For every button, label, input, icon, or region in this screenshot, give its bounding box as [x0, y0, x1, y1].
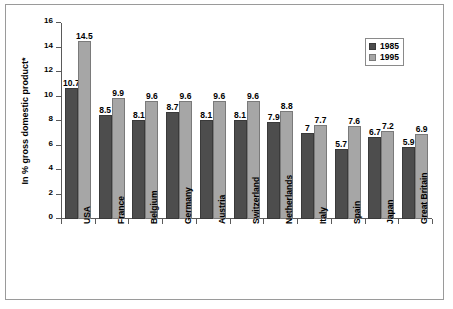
- x-axis-tick: [365, 219, 366, 224]
- bar-value-label: 7.7: [315, 115, 327, 125]
- bar-1985-netherlands: 7.9: [267, 122, 280, 219]
- category-label-france: France: [116, 196, 126, 224]
- bar-1985-germany: 8.7: [166, 112, 179, 219]
- y-axis-tick-label: 6: [49, 139, 53, 148]
- category-label-usa: USA: [82, 206, 92, 224]
- category-label-japan: Japan: [385, 199, 395, 224]
- x-axis-tick: [331, 219, 332, 224]
- bar-1985-italy: 7: [301, 133, 314, 219]
- bar-value-label: 8.8: [281, 101, 293, 111]
- legend-label-1995: 1995: [380, 52, 399, 63]
- chart-legend: 1985 1995: [365, 38, 404, 66]
- x-axis-tick: [61, 219, 62, 224]
- bar-value-label: 7.6: [348, 116, 360, 126]
- bar-value-label: 14.5: [76, 31, 93, 41]
- bar-value-label: 8.1: [234, 110, 246, 120]
- category-label-great-britain: Great Britain: [419, 173, 429, 225]
- category-label-italy: Italy: [318, 207, 328, 224]
- bar-group: 8.59.9: [99, 23, 125, 219]
- y-axis-tick: 12: [56, 71, 61, 72]
- x-axis-tick: [230, 219, 231, 224]
- legend-item-1995: 1995: [369, 52, 399, 63]
- y-axis-tick-label: 14: [44, 41, 53, 50]
- y-axis-tick-label: 12: [44, 65, 53, 74]
- bar-value-label: 6.7: [369, 127, 381, 137]
- bar-1995-usa: 14.5: [78, 41, 91, 219]
- bar-group: 8.19.6: [200, 23, 226, 219]
- bar-1985-japan: 6.7: [368, 137, 381, 219]
- bar-value-label: 5.9: [403, 137, 415, 147]
- bar-value-label: 9.6: [213, 91, 225, 101]
- x-axis-tick: [432, 219, 433, 224]
- bar-1995-italy: 7.7: [314, 125, 327, 219]
- bar-value-label: 8.7: [167, 102, 179, 112]
- y-axis-tick-label: 16: [44, 16, 53, 25]
- legend-swatch-1995: [369, 54, 376, 61]
- bar-1985-usa: 10.7: [65, 88, 78, 219]
- bar-1985-switzerland: 8.1: [234, 120, 247, 219]
- x-axis-tick: [398, 219, 399, 224]
- y-axis-tick: 10: [56, 96, 61, 97]
- legend-swatch-1985: [369, 43, 376, 50]
- category-label-netherlands: Netherlands: [284, 175, 294, 224]
- y-axis-tick: 14: [56, 47, 61, 48]
- bar-value-label: 8.1: [133, 110, 145, 120]
- bar-value-label: 8.5: [99, 105, 111, 115]
- bar-value-label: 7.2: [382, 121, 394, 131]
- y-axis-tick-label: 0: [49, 212, 53, 221]
- x-axis-tick: [297, 219, 298, 224]
- x-axis-tick: [263, 219, 264, 224]
- category-label-germany: Germany: [183, 187, 193, 224]
- bar-1985-great-britain: 5.9: [402, 147, 415, 219]
- bar-value-label: 9.6: [146, 91, 158, 101]
- x-axis-tick: [128, 219, 129, 224]
- y-axis-title: In % gross domestic product*: [18, 23, 32, 219]
- y-axis-tick-label: 4: [49, 163, 53, 172]
- bar-value-label: 7.9: [268, 112, 280, 122]
- category-label-austria: Austria: [217, 195, 227, 224]
- bar-1985-belgium: 8.1: [132, 120, 145, 219]
- y-axis-tick: 16: [56, 22, 61, 23]
- chart-frame: In % gross domestic product* 02468101214…: [5, 4, 444, 300]
- bar-value-label: 8.1: [200, 110, 212, 120]
- bar-group: 77.7: [301, 23, 327, 219]
- category-label-spain: Spain: [352, 201, 362, 224]
- legend-item-1985: 1985: [369, 41, 399, 52]
- bar-value-label: 6.9: [416, 124, 428, 134]
- bar-value-label: 5.7: [335, 139, 347, 149]
- category-label-belgium: Belgium: [149, 190, 159, 224]
- bar-group: 5.77.6: [335, 23, 361, 219]
- bar-group: 10.714.5: [65, 23, 91, 219]
- bar-1985-austria: 8.1: [200, 120, 213, 219]
- x-axis-tick: [162, 219, 163, 224]
- bar-1985-france: 8.5: [99, 115, 112, 219]
- bar-value-label: 9.6: [247, 91, 259, 101]
- bar-value-label: 9.9: [112, 88, 124, 98]
- bar-value-label: 7: [305, 123, 310, 133]
- y-axis-tick-label: 8: [49, 114, 53, 123]
- x-axis-tick: [95, 219, 96, 224]
- y-axis-tick: 8: [56, 120, 61, 121]
- y-axis-tick-label: 2: [49, 188, 53, 197]
- y-axis-tick-label: 10: [44, 90, 53, 99]
- y-axis-tick: 2: [56, 194, 61, 195]
- category-label-switzerland: Switzerland: [251, 177, 261, 224]
- bar-value-label: 9.6: [180, 91, 192, 101]
- x-axis-tick: [196, 219, 197, 224]
- legend-label-1985: 1985: [380, 41, 399, 52]
- bar-1985-spain: 5.7: [335, 149, 348, 219]
- y-axis-tick: 6: [56, 145, 61, 146]
- y-axis-tick: 4: [56, 169, 61, 170]
